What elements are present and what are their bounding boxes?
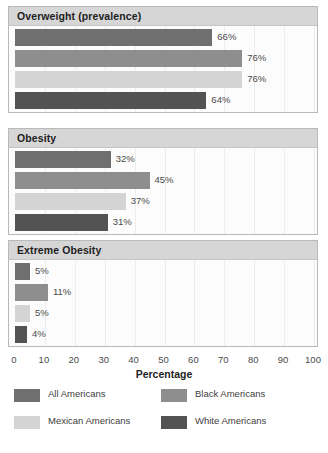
x-axis-title: Percentage: [0, 368, 328, 380]
x-axis-tick-label: 20: [69, 354, 80, 365]
bar-value-label: 76%: [247, 52, 266, 63]
x-axis-tick-label: 100: [305, 354, 321, 365]
legend-swatch: [14, 416, 40, 429]
bar-row: 4%: [9, 326, 317, 343]
bar-value-label: 4%: [32, 328, 46, 339]
bar-row: 76%: [9, 50, 317, 67]
panel-title: Obesity: [17, 132, 56, 144]
bar-row: 32%: [9, 151, 317, 168]
bar-value-label: 45%: [155, 174, 174, 185]
panel-plot-area: 32%45%37%31%: [9, 148, 317, 234]
bar: [15, 193, 126, 210]
panel-plot-area: 66%76%76%64%: [9, 26, 317, 112]
x-axis-tick-label: 60: [188, 354, 199, 365]
bar: [15, 263, 30, 280]
x-axis-tick-label: 90: [278, 354, 289, 365]
bar-value-label: 76%: [247, 73, 266, 84]
bar-value-label: 11%: [53, 286, 71, 297]
bar: [15, 284, 48, 301]
x-axis-tick-label: 30: [98, 354, 109, 365]
legend-label: Black Americans: [195, 388, 265, 399]
legend-label: Mexican Americans: [48, 415, 130, 426]
panel-plot-area: 5%11%5%4%: [9, 260, 317, 346]
bar-value-label: 32%: [116, 153, 135, 164]
x-axis-tick-label: 10: [39, 354, 50, 365]
bar-value-label: 5%: [35, 307, 49, 318]
legend-swatch: [14, 389, 40, 402]
bar-value-label: 37%: [131, 195, 150, 206]
x-axis-tick-label: 0: [11, 354, 16, 365]
bar: [15, 92, 206, 109]
chart-panel: Overweight (prevalence)66%76%76%64%: [8, 6, 318, 113]
bar-value-label: 66%: [217, 31, 236, 42]
bar-value-label: 5%: [35, 265, 49, 276]
panel-header: Overweight (prevalence): [9, 7, 317, 26]
bar-row: 64%: [9, 92, 317, 109]
grouped-bar-chart: Overweight (prevalence)66%76%76%64%Obesi…: [0, 0, 328, 453]
bar: [15, 305, 30, 322]
bar-row: 11%: [9, 284, 317, 301]
chart-panel: Extreme Obesity5%11%5%4%: [8, 240, 318, 347]
bar: [15, 50, 242, 67]
panel-header: Extreme Obesity: [9, 241, 317, 260]
bar-value-label: 64%: [211, 94, 230, 105]
x-axis-tick-label: 80: [248, 354, 259, 365]
panel-title: Extreme Obesity: [17, 244, 101, 256]
legend-label: All Americans: [48, 388, 106, 399]
bar-row: 66%: [9, 29, 317, 46]
bar: [15, 326, 27, 343]
legend-swatch: [161, 416, 187, 429]
bar: [15, 172, 150, 189]
legend-label: White Americans: [195, 415, 266, 426]
bar-row: 45%: [9, 172, 317, 189]
bar: [15, 214, 108, 231]
chart-panel: Obesity32%45%37%31%: [8, 128, 318, 235]
bar-row: 31%: [9, 214, 317, 231]
bar-row: 5%: [9, 263, 317, 280]
bar-row: 37%: [9, 193, 317, 210]
bar-value-label: 31%: [113, 216, 132, 227]
bar-row: 5%: [9, 305, 317, 322]
legend-swatch: [161, 389, 187, 402]
x-axis-tick-label: 40: [128, 354, 139, 365]
x-axis-tick-label: 70: [218, 354, 229, 365]
bar: [15, 151, 111, 168]
x-axis-tick-label: 50: [158, 354, 169, 365]
bar-row: 76%: [9, 71, 317, 88]
panel-header: Obesity: [9, 129, 317, 148]
panel-title: Overweight (prevalence): [17, 10, 141, 22]
bar: [15, 71, 242, 88]
bar: [15, 29, 212, 46]
